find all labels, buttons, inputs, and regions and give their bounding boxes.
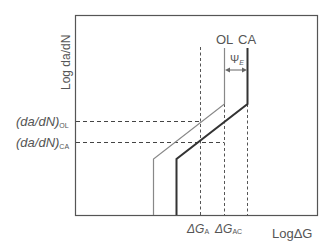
- dadn-ol-label: (da/dN)OL: [16, 114, 69, 129]
- ol-curve: [154, 48, 225, 215]
- curve-label-ol: OL: [216, 32, 233, 47]
- arrow-left-head-icon: [225, 68, 230, 73]
- dadn-ca-label: (da/dN)CA: [16, 135, 69, 150]
- delta-g-ac-label: ΔGAC: [214, 222, 242, 236]
- psi-e-label: ΨE: [230, 53, 244, 66]
- arrow-right-head-icon: [242, 68, 247, 73]
- delta-g-a-label: ΔGA: [186, 222, 209, 236]
- x-axis-label: LogΔG: [272, 226, 313, 241]
- crack-growth-diagram: OL CA ΨE Log da/dN (da/dN)OL (da/dN)CA Δ…: [0, 0, 331, 251]
- y-axis-label: Log da/dN: [59, 35, 73, 90]
- ca-curve: [177, 48, 248, 215]
- curve-label-ca: CA: [238, 32, 256, 47]
- plot-frame: [76, 16, 318, 216]
